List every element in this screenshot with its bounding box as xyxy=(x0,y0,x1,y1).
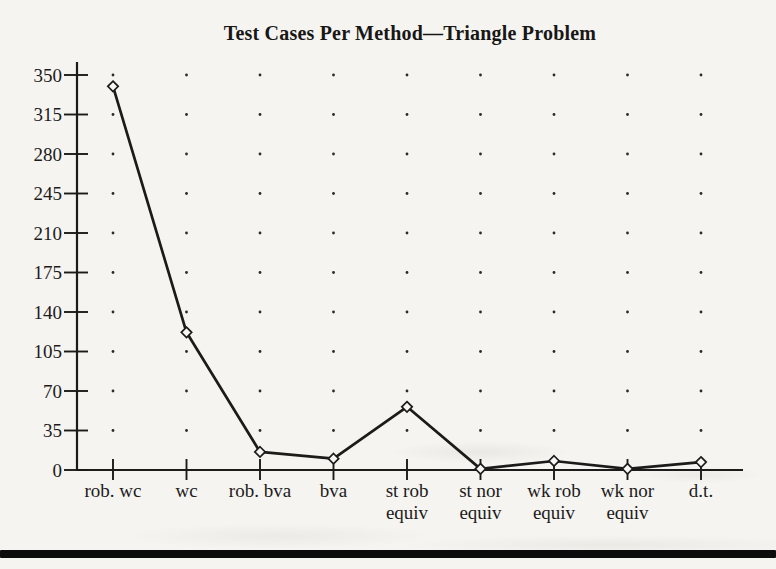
grid-dot xyxy=(553,429,556,432)
grid-dot xyxy=(112,311,115,314)
x-category-label: equiv xyxy=(533,502,576,523)
y-tick-label: 210 xyxy=(34,223,63,244)
grid-dot xyxy=(553,311,556,314)
data-point-marker xyxy=(549,456,559,466)
y-tick-label: 175 xyxy=(34,262,63,283)
grid-dot xyxy=(626,113,629,116)
grid-dot xyxy=(112,390,115,393)
grid-dot xyxy=(479,153,482,156)
grid-dot xyxy=(700,192,703,195)
grid-dot xyxy=(406,153,409,156)
grid-dot xyxy=(479,74,482,77)
grid-dot xyxy=(185,192,188,195)
x-category-label: equiv xyxy=(459,502,502,523)
grid-dot xyxy=(332,153,335,156)
x-category-label: d.t. xyxy=(689,480,713,501)
x-category-label: wk rob xyxy=(527,480,580,501)
grid-dot xyxy=(112,74,115,77)
grid-dot xyxy=(406,74,409,77)
grid-dot xyxy=(406,429,409,432)
grid-dot xyxy=(259,113,262,116)
grid-dot xyxy=(332,350,335,353)
data-point-marker xyxy=(696,457,706,467)
grid-dot xyxy=(112,350,115,353)
x-category-label: rob. wc xyxy=(85,480,142,501)
grid-dot xyxy=(553,271,556,274)
x-category-label: equiv xyxy=(606,502,649,523)
grid-dot xyxy=(332,232,335,235)
y-tick-label: 280 xyxy=(34,144,63,165)
grid-dot xyxy=(553,192,556,195)
grid-dot xyxy=(700,74,703,77)
grid-dot xyxy=(259,311,262,314)
grid-dot xyxy=(406,350,409,353)
y-tick-label: 35 xyxy=(43,420,62,441)
x-category-label: bva xyxy=(320,480,348,501)
grid-dot xyxy=(406,311,409,314)
grid-dot xyxy=(259,192,262,195)
grid-dot xyxy=(700,232,703,235)
grid-dot xyxy=(553,153,556,156)
grid-dot xyxy=(479,390,482,393)
grid-dot xyxy=(185,390,188,393)
grid-dot xyxy=(332,311,335,314)
grid-dot xyxy=(553,390,556,393)
grid-dot xyxy=(626,192,629,195)
grid-dot xyxy=(406,232,409,235)
grid-dot xyxy=(185,153,188,156)
grid-dot xyxy=(479,429,482,432)
grid-dot xyxy=(185,350,188,353)
grid-dot xyxy=(112,113,115,116)
y-tick-label: 0 xyxy=(53,460,63,481)
grid-dot xyxy=(553,113,556,116)
grid-dot xyxy=(479,232,482,235)
x-category-label: st nor xyxy=(459,480,502,501)
grid-dot xyxy=(553,74,556,77)
grid-dot xyxy=(626,311,629,314)
grid-dot xyxy=(479,350,482,353)
grid-dot xyxy=(553,232,556,235)
grid-dot xyxy=(185,429,188,432)
grid-dot xyxy=(479,311,482,314)
grid-dot xyxy=(406,390,409,393)
grid-dot xyxy=(700,153,703,156)
grid-dot xyxy=(700,350,703,353)
grid-dot xyxy=(406,192,409,195)
grid-dot xyxy=(553,350,556,353)
grid-dot xyxy=(626,429,629,432)
grid-dot xyxy=(700,271,703,274)
grid-dot xyxy=(259,153,262,156)
grid-dot xyxy=(700,429,703,432)
y-tick-label: 350 xyxy=(34,65,63,86)
grid-dot xyxy=(479,192,482,195)
y-tick-label: 70 xyxy=(43,381,62,402)
grid-dot xyxy=(259,271,262,274)
grid-dot xyxy=(479,113,482,116)
x-category-label: equiv xyxy=(386,502,429,523)
grid-dot xyxy=(332,390,335,393)
y-tick-label: 105 xyxy=(34,341,63,362)
grid-dot xyxy=(259,390,262,393)
x-category-label: wc xyxy=(175,480,197,501)
grid-dot xyxy=(332,113,335,116)
grid-dot xyxy=(332,192,335,195)
x-category-label: st rob xyxy=(386,480,429,501)
grid-dot xyxy=(112,232,115,235)
grid-dot xyxy=(112,271,115,274)
data-point-marker xyxy=(108,81,118,91)
grid-dot xyxy=(185,74,188,77)
line-chart-canvas: 03570105140175210245280315350rob. wcwcro… xyxy=(0,0,776,569)
grid-dot xyxy=(112,153,115,156)
grid-dot xyxy=(626,74,629,77)
grid-dot xyxy=(332,74,335,77)
grid-dot xyxy=(626,390,629,393)
y-tick-label: 245 xyxy=(34,183,63,204)
grid-dot xyxy=(700,390,703,393)
grid-dot xyxy=(626,271,629,274)
grid-dot xyxy=(259,429,262,432)
grid-dot xyxy=(259,232,262,235)
grid-dot xyxy=(332,429,335,432)
grid-dot xyxy=(479,271,482,274)
grid-dot xyxy=(332,271,335,274)
y-tick-label: 140 xyxy=(34,302,63,323)
